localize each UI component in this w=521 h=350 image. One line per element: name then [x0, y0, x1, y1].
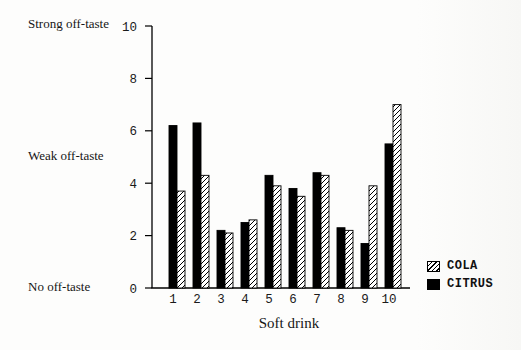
bar-cola-2: [201, 175, 209, 288]
x-tick-label: 2: [193, 293, 201, 307]
bar-cola-4: [249, 220, 257, 288]
cola-hatched-swatch-icon: [427, 261, 440, 272]
x-tick-label: 9: [361, 293, 369, 307]
x-axis-title: Soft drink: [160, 315, 418, 332]
bar-citrus-3: [217, 230, 225, 288]
x-tick-label: 5: [265, 293, 273, 307]
bar-cola-1: [177, 191, 185, 288]
y-tick-label: 10: [122, 21, 137, 35]
x-tick-label: 10: [381, 293, 396, 307]
bar-citrus-10: [385, 144, 393, 288]
legend-label-cola: COLA: [447, 259, 478, 273]
bar-citrus-2: [193, 123, 201, 288]
y-annotation-strong-off-taste: Strong off-taste: [28, 16, 109, 32]
legend-label-citrus: CITRUS: [447, 277, 493, 291]
legend-item-cola: COLA: [427, 259, 493, 273]
y-annotation-weak-off-taste: Weak off-taste: [28, 148, 104, 164]
bar-citrus-1: [169, 126, 177, 288]
x-tick-label: 7: [313, 293, 321, 307]
y-tick-label: 6: [129, 125, 137, 139]
plot-area: 024681012345678910: [122, 21, 410, 307]
legend-item-citrus: CITRUS: [427, 277, 493, 291]
x-tick-label: 8: [337, 293, 345, 307]
bar-citrus-6: [289, 188, 297, 288]
bar-citrus-7: [313, 173, 321, 288]
off-taste-bar-chart-figure: 024681012345678910 Strong off-taste Weak…: [0, 0, 521, 350]
y-tick-label: 0: [129, 283, 137, 297]
citrus-solid-swatch-icon: [427, 279, 440, 290]
bar-cola-10: [393, 105, 401, 288]
bar-citrus-5: [265, 175, 273, 288]
x-tick-label: 6: [289, 293, 297, 307]
y-tick-label: 8: [129, 73, 137, 87]
bar-cola-5: [273, 186, 281, 288]
bar-cola-7: [321, 175, 329, 288]
x-tick-label: 3: [217, 293, 225, 307]
bar-cola-8: [345, 230, 353, 288]
bar-cola-6: [297, 196, 305, 288]
bar-cola-3: [225, 233, 233, 288]
bar-citrus-9: [361, 243, 369, 288]
x-tick-label: 1: [169, 293, 177, 307]
x-tick-label: 4: [241, 293, 249, 307]
y-tick-label: 4: [129, 178, 137, 192]
y-annotation-no-off-taste: No off-taste: [28, 279, 90, 295]
bar-citrus-8: [337, 228, 345, 288]
legend: COLA CITRUS: [427, 259, 493, 291]
bar-citrus-4: [241, 223, 249, 289]
bar-cola-9: [369, 186, 377, 288]
chart-svg: 024681012345678910: [0, 0, 521, 350]
y-tick-label: 2: [129, 230, 137, 244]
